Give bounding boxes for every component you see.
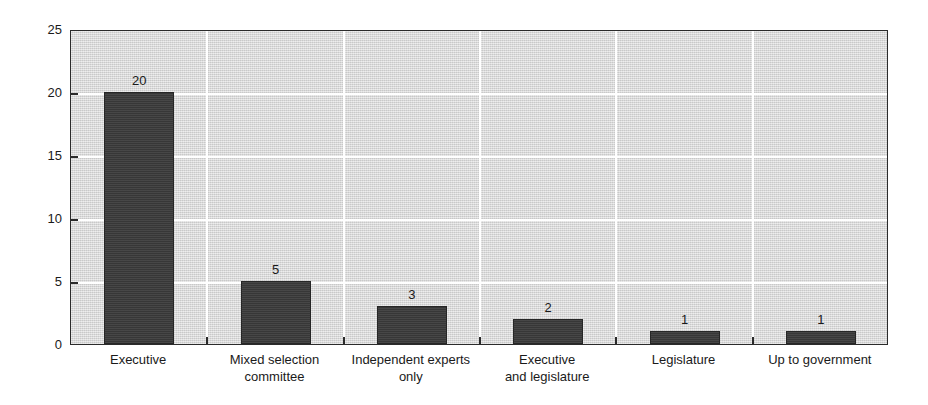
x-axis-category-label-line: Executive bbox=[479, 351, 615, 368]
bar-chart-figure: 0510152025 2053211 ExecutiveMixed select… bbox=[0, 0, 928, 405]
y-axis-tick bbox=[71, 93, 78, 95]
x-axis-category-label-line: Executive bbox=[70, 351, 206, 368]
bar-value-label: 20 bbox=[71, 73, 207, 88]
x-axis-category-label: Independent expertsonly bbox=[343, 351, 479, 385]
y-axis-tick-label: 15 bbox=[10, 149, 62, 163]
bar-value-label: 2 bbox=[480, 300, 616, 315]
y-axis-tick-label: 0 bbox=[10, 338, 62, 352]
bar bbox=[104, 92, 174, 344]
bar-value-label: 5 bbox=[207, 262, 343, 277]
x-axis-category-label-line: Independent experts bbox=[343, 351, 479, 368]
bar bbox=[513, 319, 583, 344]
x-axis-category-label-line: Up to government bbox=[752, 351, 888, 368]
y-axis-tick-label: 25 bbox=[10, 23, 62, 37]
bar-value-label: 3 bbox=[344, 287, 480, 302]
y-axis-tick-label: 10 bbox=[10, 212, 62, 226]
x-axis-category-label: Mixed selectioncommittee bbox=[206, 351, 342, 385]
y-axis-tick bbox=[71, 156, 78, 158]
x-axis-category-label-line: Mixed selection bbox=[206, 351, 342, 368]
x-axis-tick bbox=[343, 337, 345, 344]
x-axis-category-label: Up to government bbox=[752, 351, 888, 368]
x-axis-category-labels: ExecutiveMixed selectioncommitteeIndepen… bbox=[70, 351, 888, 399]
y-axis-tick-label: 5 bbox=[10, 275, 62, 289]
bar-value-label: 1 bbox=[753, 312, 888, 327]
x-axis-category-label: Executive bbox=[70, 351, 206, 368]
bar bbox=[786, 331, 856, 344]
x-axis-category-label-line: Legislature bbox=[615, 351, 751, 368]
x-axis-tick bbox=[615, 337, 617, 344]
y-axis-tick bbox=[71, 282, 78, 284]
y-axis-tick bbox=[71, 219, 78, 221]
bar bbox=[241, 281, 311, 344]
y-axis-tick-labels: 0510152025 bbox=[0, 30, 62, 345]
x-axis-category-label: Legislature bbox=[615, 351, 751, 368]
bar-value-label: 1 bbox=[616, 312, 752, 327]
vertical-gridline bbox=[752, 31, 754, 344]
x-axis-tick bbox=[479, 337, 481, 344]
bar bbox=[377, 306, 447, 344]
x-axis-category-label: Executiveand legislature bbox=[479, 351, 615, 385]
bar bbox=[650, 331, 720, 344]
x-axis-tick bbox=[206, 337, 208, 344]
y-axis-tick-label: 20 bbox=[10, 86, 62, 100]
x-axis-category-label-line: only bbox=[343, 368, 479, 385]
x-axis-category-label-line: committee bbox=[206, 368, 342, 385]
x-axis-category-label-line: and legislature bbox=[479, 368, 615, 385]
vertical-gridline bbox=[615, 31, 617, 344]
plot-area: 2053211 bbox=[70, 30, 888, 345]
x-axis-tick bbox=[752, 337, 754, 344]
